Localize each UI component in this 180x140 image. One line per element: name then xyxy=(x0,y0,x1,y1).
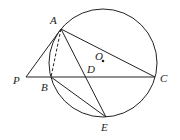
segment-pa xyxy=(26,29,61,77)
circle-o xyxy=(49,9,157,117)
label-c: C xyxy=(160,72,168,84)
label-b: B xyxy=(41,81,48,93)
label-p: P xyxy=(12,74,20,86)
label-a: A xyxy=(49,14,57,26)
segment-ac xyxy=(61,29,155,77)
label-o: O xyxy=(95,50,103,62)
label-e: E xyxy=(100,121,108,133)
label-d: D xyxy=(86,63,95,75)
geometry-diagram: A P B C D O E xyxy=(0,0,180,140)
